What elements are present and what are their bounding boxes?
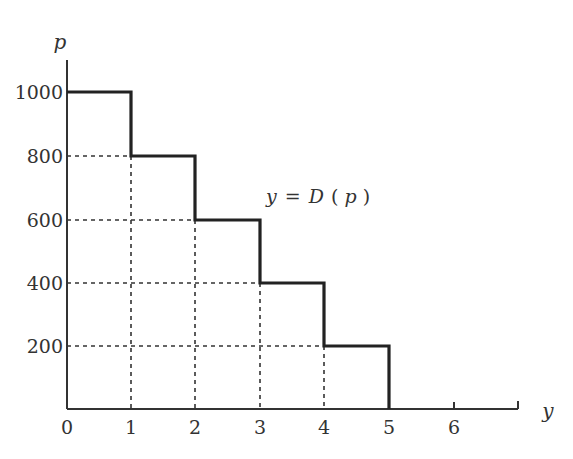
- x-tick-5: 5: [383, 416, 395, 438]
- curve-label: y = D ( p ): [265, 185, 370, 207]
- y-tick-1000: 1000: [15, 81, 63, 103]
- curve-label-y: y: [265, 185, 277, 207]
- curve-label-close-paren: ): [363, 185, 370, 207]
- x-axis-title: y: [541, 399, 554, 423]
- demand-step-line: [67, 92, 389, 409]
- y-axis-title: p: [54, 30, 67, 54]
- x-tick-6: 6: [448, 416, 460, 438]
- axes: [67, 60, 518, 409]
- x-tick-1: 1: [125, 416, 137, 438]
- x-tick-0: 0: [61, 416, 73, 438]
- x-tick-3: 3: [254, 416, 266, 438]
- x-tick-2: 2: [189, 416, 201, 438]
- demand-step-chart: 1000 800 600 400 200 0 1 2 3 4 5 6 p y y…: [0, 0, 573, 459]
- y-tick-200: 200: [27, 335, 63, 357]
- y-tick-labels: 1000 800 600 400 200: [15, 81, 63, 357]
- y-tick-400: 400: [27, 272, 63, 294]
- y-tick-800: 800: [27, 145, 63, 167]
- x-tick-4: 4: [318, 416, 330, 438]
- curve-label-p: p: [345, 185, 357, 207]
- curve-label-fn: D: [308, 185, 324, 207]
- curve-label-open-paren: (: [331, 185, 338, 207]
- curve-label-equals: =: [285, 185, 301, 207]
- y-tick-600: 600: [27, 209, 63, 231]
- x-tick-labels: 0 1 2 3 4 5 6: [61, 416, 460, 438]
